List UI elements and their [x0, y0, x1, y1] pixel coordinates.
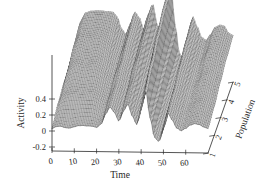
tick-label: 60: [179, 157, 189, 168]
tick-label: -0.2: [33, 142, 46, 152]
tick-label: 50: [157, 157, 167, 168]
tick-label: 2: [213, 134, 224, 141]
tick-label: 0.4: [35, 94, 46, 104]
tick-label: 3: [219, 116, 230, 123]
tick-label: 10: [68, 156, 78, 167]
tick-label: 1: [207, 151, 218, 158]
time-axis-line: [52, 151, 208, 153]
tick-label: 0: [48, 156, 54, 166]
tick-label: 20: [90, 156, 100, 167]
plot-canvas: -0.200.20.4 0102030405060 12345 Activity…: [0, 0, 269, 186]
activity-axis-title: Activity: [16, 97, 26, 128]
wireframe-mesh: [52, 0, 233, 141]
tick-label: 0: [42, 126, 46, 136]
tick-label: 40: [135, 157, 145, 168]
tick-label: 5: [232, 80, 243, 87]
tick-label: 30: [113, 156, 123, 167]
tick-label: 4: [226, 97, 237, 105]
population-axis-title: Population: [233, 98, 257, 140]
time-axis-title: Time: [110, 170, 130, 180]
surface-plot-figure: -0.200.20.4 0102030405060 12345 Activity…: [0, 0, 269, 186]
tick-label: 0.2: [35, 110, 46, 120]
